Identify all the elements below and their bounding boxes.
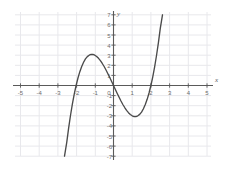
y-tick-label: -6 — [107, 144, 113, 150]
x-tick-label: -3 — [55, 90, 61, 96]
x-tick-label: -4 — [37, 90, 43, 96]
y-tick-label: -2 — [107, 103, 113, 109]
y-tick-label: -5 — [107, 134, 113, 140]
x-tick-label: -1 — [93, 90, 99, 96]
y-tick-label: -1 — [107, 93, 113, 99]
cubic-function-graph: -5 -4 -3 -2 -1 0 1 2 3 4 5 7 6 5 4 3 2 1… — [0, 0, 226, 169]
x-tick-label: -5 — [18, 90, 24, 96]
plot-area: -5 -4 -3 -2 -1 0 1 2 3 4 5 7 6 5 4 3 2 1… — [0, 0, 226, 169]
y-tick-label: -7 — [107, 154, 113, 160]
y-tick-label: -3 — [107, 113, 113, 119]
y-tick-label: -4 — [107, 123, 113, 129]
